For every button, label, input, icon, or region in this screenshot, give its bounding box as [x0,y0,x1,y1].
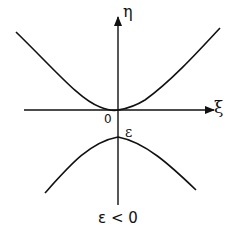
y-axis-label: η [123,4,133,20]
origin-label: 0 [104,113,112,125]
dispersion-diagram: ξ η 0 ε ε < 0 [0,0,236,241]
figure-caption: ε < 0 [0,211,236,226]
lower-curve [45,137,196,193]
diagram-canvas [0,0,236,241]
gap-label: ε [125,125,132,139]
x-axis-label: ξ [214,99,223,116]
